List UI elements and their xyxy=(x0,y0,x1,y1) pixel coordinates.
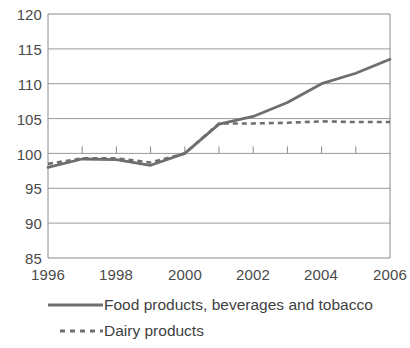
legend-item-food-products: Food products, beverages and tobacco xyxy=(48,292,402,318)
y-tick-label-95: 95 xyxy=(4,180,42,197)
x-tick-label-2006: 2006 xyxy=(370,266,410,283)
x-tick-label-2000: 2000 xyxy=(165,266,205,283)
x-axis-ticks xyxy=(82,146,356,153)
y-tick-label-90: 90 xyxy=(4,215,42,232)
legend-label-food-products: Food products, beverages and tobacco xyxy=(103,296,373,314)
y-tick-label-115: 115 xyxy=(4,41,42,58)
legend-solid-line-icon xyxy=(48,298,103,312)
axis-frame xyxy=(48,14,390,258)
x-tick-label-1996: 1996 xyxy=(28,266,68,283)
legend-item-dairy-products: Dairy products xyxy=(48,318,402,344)
legend-label-dairy-products: Dairy products xyxy=(103,322,204,340)
x-tick-label-1998: 1998 xyxy=(96,266,136,283)
x-tick-label-2002: 2002 xyxy=(233,266,273,283)
y-tick-label-85: 85 xyxy=(4,250,42,267)
y-tick-label-105: 105 xyxy=(4,111,42,128)
gridlines xyxy=(48,14,390,258)
legend-dashed-line-icon xyxy=(60,324,103,338)
x-tick-label-2004: 2004 xyxy=(301,266,341,283)
chart-legend: Food products, beverages and tobacco Dai… xyxy=(48,292,402,344)
y-tick-label-100: 100 xyxy=(4,146,42,163)
series-line-dairy-products xyxy=(48,121,390,164)
y-tick-label-110: 110 xyxy=(4,76,42,93)
y-tick-label-120: 120 xyxy=(4,6,42,23)
